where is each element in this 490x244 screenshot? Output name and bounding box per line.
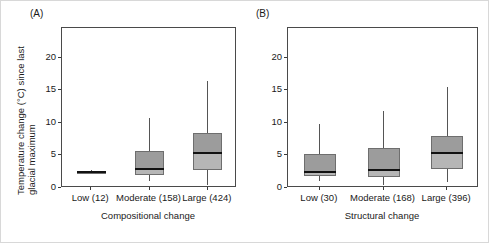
y-tick-label-a-5: 5 [51,149,56,159]
box-plot-a-2 [62,28,235,186]
x-axis-title-b: Structural change [345,211,419,221]
y-tick-mark-a-15 [58,89,61,90]
y-axis-title-line1: Temperature change (°C) since last [15,46,26,195]
y-tick-label-b-5: 5 [277,149,282,159]
y-tick-mark-a-5 [58,154,61,155]
y-tick-label-a-15: 15 [45,84,56,94]
x-tick-mark-a-1 [149,187,150,190]
y-tick-label-a-0: 0 [51,182,56,192]
x-category-label-a-2: Large (424) [182,193,231,203]
whisker-lower-a-2 [207,170,208,185]
box-upper-half-a-2 [194,134,221,152]
median-line-a-2 [193,152,222,154]
box-upper-half-b-2 [432,137,462,153]
plot-area-b [288,28,477,186]
plot-frame-a [61,27,236,187]
x-tick-mark-b-1 [383,187,384,190]
y-tick-mark-a-0 [58,187,61,188]
x-axis-title-a: Compositional change [101,211,195,221]
x-tick-mark-b-2 [446,187,447,190]
y-tick-mark-b-0 [284,187,287,188]
y-axis-a: 05101520 [32,0,56,244]
x-tick-mark-b-0 [319,187,320,190]
y-tick-mark-b-15 [284,89,287,90]
x-tick-mark-a-2 [207,187,208,190]
y-tick-label-a-20: 20 [45,52,56,62]
plot-area-a [62,28,235,186]
y-tick-mark-a-10 [58,122,61,123]
y-axis-title: Temperature change (°C) since last glaci… [4,16,30,196]
x-category-label-b-2: Large (396) [422,193,471,203]
x-category-label-b-0: Low (30) [300,193,337,203]
whisker-upper-a-2 [207,81,208,134]
y-tick-mark-b-10 [284,122,287,123]
y-tick-label-b-0: 0 [277,182,282,192]
y-tick-label-b-20: 20 [271,52,282,62]
y-tick-label-a-10: 10 [45,117,56,127]
y-tick-label-b-10: 10 [271,117,282,127]
median-line-b-2 [431,152,463,154]
x-tick-mark-a-0 [90,187,91,190]
x-category-label-b-1: Moderate (168) [350,193,415,203]
x-category-label-a-0: Low (12) [72,193,109,203]
y-tick-label-b-15: 15 [271,84,282,94]
x-category-label-a-1: Moderate (158) [116,193,181,203]
y-tick-mark-b-5 [284,154,287,155]
box-lower-half-b-2 [432,153,462,168]
y-tick-mark-a-20 [58,57,61,58]
plot-frame-b [287,27,478,187]
whisker-lower-b-2 [447,169,448,182]
box-lower-half-a-2 [194,153,221,170]
y-axis-b: 05101520 [258,0,282,244]
y-tick-mark-b-20 [284,57,287,58]
box-plot-b-2 [288,28,477,186]
whisker-upper-b-2 [447,87,448,136]
boxplot-figure: Temperature change (°C) since last glaci… [0,0,490,244]
